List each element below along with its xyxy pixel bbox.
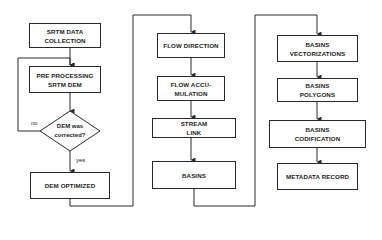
edge-label-yes: yes: [76, 157, 85, 163]
node-basins-vectorizations: BASINS VECTORIZATIONS: [277, 35, 358, 62]
node-stream-link: STREAM LINK: [152, 118, 236, 138]
node-basins: BASINS: [152, 161, 236, 189]
edge-label-no: no: [31, 120, 38, 126]
node-metadata-record: METADATA RECORD: [277, 163, 358, 190]
node-dem-corrected-decision: DEM was corrected?: [44, 122, 96, 140]
node-dem-optimized: DEM OPTIMIZED: [30, 172, 110, 199]
node-srtm-data-collection: SRTM DATA COLLECTION: [29, 23, 101, 48]
node-flow-accumulation: FLOW ACCU- MULATION: [157, 76, 225, 101]
node-pre-processing: PRE PROCESSING SRTM DEM: [29, 66, 101, 93]
node-basins-codification: BASINS CODIFICATION: [269, 120, 366, 148]
node-flow-direction: FLOW DIRECTION: [157, 33, 225, 58]
node-basins-polygons: BASINS POLYGONS: [277, 78, 358, 102]
